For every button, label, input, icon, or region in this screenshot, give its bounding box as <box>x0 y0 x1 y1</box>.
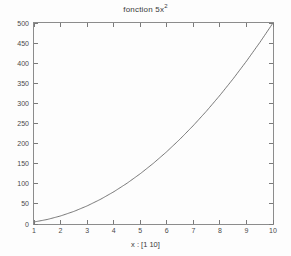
y-tick-label: 500 <box>2 20 29 27</box>
y-tick-label: 50 <box>2 200 29 207</box>
x-tick-label: 6 <box>157 227 177 234</box>
y-tick-label: 100 <box>2 180 29 187</box>
y-tick-label: 300 <box>2 100 29 107</box>
y-axis-tick-right <box>269 43 273 44</box>
x-tick-label: 1 <box>24 227 44 234</box>
y-axis-tick-right <box>269 103 273 104</box>
plot-inner <box>34 23 273 224</box>
x-axis-tick-bottom <box>140 220 141 224</box>
chart-title-base: fonction 5x <box>123 5 164 14</box>
y-axis-tick-left <box>34 43 38 44</box>
x-tick-label: 10 <box>263 227 283 234</box>
x-axis-tick-bottom <box>166 220 167 224</box>
y-axis-tick-left <box>34 123 38 124</box>
x-tick-label: 2 <box>51 227 71 234</box>
x-axis-tick-bottom <box>60 220 61 224</box>
x-axis-tick-top <box>140 23 141 27</box>
y-tick-label: 200 <box>2 140 29 147</box>
x-axis-tick-bottom <box>87 220 88 224</box>
y-axis-tick-right <box>269 203 273 204</box>
x-tick-label: 5 <box>130 227 150 234</box>
y-tick-label: 250 <box>2 120 29 127</box>
plot-area <box>33 22 274 225</box>
y-tick-label: 150 <box>2 160 29 167</box>
x-axis-tick-top <box>219 23 220 27</box>
x-axis-tick-bottom <box>193 220 194 224</box>
y-axis-tick-right <box>269 123 273 124</box>
x-tick-label: 3 <box>77 227 97 234</box>
chart-screenshot: fonction 5x2 050100150200250300350400450… <box>0 0 291 256</box>
x-tick-label: 7 <box>183 227 203 234</box>
chart-title-exponent: 2 <box>164 3 168 9</box>
x-axis-label: x : [1 10] <box>0 240 291 249</box>
y-axis-tick-left <box>34 23 38 24</box>
y-axis-tick-left <box>34 183 38 184</box>
y-tick-label: 450 <box>2 40 29 47</box>
y-axis-tick-right <box>269 83 273 84</box>
chart-title: fonction 5x2 <box>0 5 291 14</box>
x-axis-tick-top <box>193 23 194 27</box>
y-tick-label: 400 <box>2 60 29 67</box>
y-tick-label: 350 <box>2 80 29 87</box>
x-axis-tick-top <box>60 23 61 27</box>
x-tick-label: 8 <box>210 227 230 234</box>
y-axis-tick-left <box>34 103 38 104</box>
data-series-line <box>34 23 273 222</box>
curve-svg <box>34 23 273 224</box>
x-tick-label: 9 <box>236 227 256 234</box>
x-axis-tick-bottom <box>246 220 247 224</box>
x-axis-tick-top <box>273 23 274 27</box>
y-axis-tick-left <box>34 224 38 225</box>
x-axis-tick-top <box>166 23 167 27</box>
y-axis-tick-right <box>269 63 273 64</box>
x-axis-tick-top <box>113 23 114 27</box>
x-axis-tick-top <box>34 23 35 27</box>
y-axis-tick-right <box>269 163 273 164</box>
x-axis-tick-bottom <box>113 220 114 224</box>
x-axis-tick-bottom <box>34 220 35 224</box>
x-tick-label: 4 <box>104 227 124 234</box>
x-axis-tick-bottom <box>219 220 220 224</box>
y-axis-tick-left <box>34 143 38 144</box>
y-axis-tick-left <box>34 63 38 64</box>
x-axis-tick-top <box>87 23 88 27</box>
y-axis-tick-left <box>34 83 38 84</box>
y-axis-tick-right <box>269 183 273 184</box>
y-axis-tick-left <box>34 203 38 204</box>
y-axis-tick-left <box>34 163 38 164</box>
x-axis-tick-bottom <box>273 220 274 224</box>
y-axis-tick-right <box>269 143 273 144</box>
x-axis-tick-top <box>246 23 247 27</box>
